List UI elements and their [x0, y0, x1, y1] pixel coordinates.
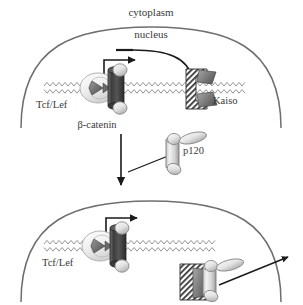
beta-catenin-knob-bottom-icon-bottom	[115, 260, 129, 272]
beta-catenin-knob-top-icon-bottom	[115, 222, 129, 234]
p120-head-ellipse-icon-bottom	[205, 260, 218, 271]
cytoplasm-label: cytoplasm	[128, 6, 174, 18]
p120-connector-line	[128, 156, 168, 172]
kaiso-p120-complex-bottom	[180, 257, 245, 304]
beta-catenin-knob-top-icon	[113, 64, 127, 76]
pathway-diagram-svg: cytoplasm nucleus	[0, 0, 303, 305]
nuclear-envelope-top	[21, 27, 281, 128]
beta-catenin-label: β-catenin	[77, 119, 117, 130]
kaiso-inhibition-arrow	[133, 50, 192, 78]
p120-head-ellipse-icon	[168, 133, 181, 144]
kaiso-wedge-top-icon	[197, 70, 216, 84]
panel-middle: p120	[121, 130, 208, 185]
kaiso-label: Kaiso	[213, 95, 238, 106]
panel-bottom: Tcf/Lef	[21, 201, 288, 303]
nucleus-label: nucleus	[134, 28, 168, 40]
tcf-lef-label-top: Tcf/Lef	[36, 99, 68, 110]
p120-label: p120	[183, 145, 204, 156]
nuclear-envelope-bottom	[21, 201, 281, 302]
p120-arm-ellipse-icon	[178, 130, 208, 147]
panel-top: cytoplasm nucleus	[21, 6, 281, 130]
dna-strand-bottom	[44, 240, 215, 251]
p120-arm-ellipse-icon-bottom	[215, 257, 245, 274]
dna-strand-top	[44, 82, 245, 93]
beta-catenin-knob-bottom-icon	[113, 102, 127, 114]
tcf-lef-label-bottom: Tcf/Lef	[42, 257, 74, 268]
figure-root: cytoplasm nucleus	[0, 0, 303, 305]
